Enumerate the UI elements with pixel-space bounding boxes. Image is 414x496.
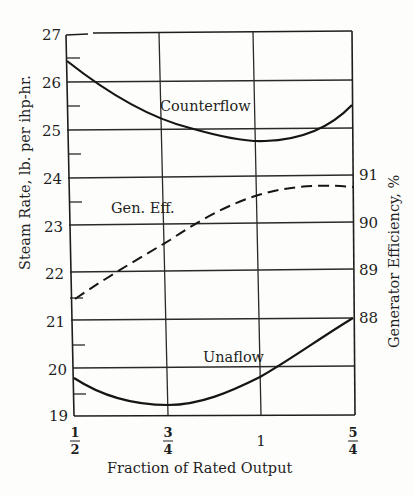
svg-text:4: 4 bbox=[163, 442, 172, 457]
x-tick-labels: 1 2 3 4 1 5 4 bbox=[70, 425, 358, 457]
svg-text:90: 90 bbox=[359, 214, 378, 232]
svg-text:2: 2 bbox=[70, 442, 79, 457]
right-y-tick-labels: 91 90 89 88 bbox=[359, 166, 378, 327]
svg-text:91: 91 bbox=[359, 166, 378, 184]
horizontal-gridlines bbox=[67, 80, 354, 368]
svg-text:19: 19 bbox=[49, 407, 68, 425]
chart: Counterflow Gen. Eff. Unaflow 27 26 25 2… bbox=[0, 0, 414, 496]
gen-eff-label: Gen. Eff. bbox=[111, 200, 175, 216]
counterflow-label: Counterflow bbox=[160, 98, 251, 114]
svg-text:23: 23 bbox=[44, 218, 63, 236]
svg-text:1: 1 bbox=[70, 425, 79, 440]
svg-text:22: 22 bbox=[45, 265, 64, 283]
svg-text:4: 4 bbox=[348, 442, 357, 457]
svg-text:25: 25 bbox=[42, 122, 61, 140]
svg-text:24: 24 bbox=[43, 170, 62, 188]
left-y-tick-labels: 27 26 25 24 23 22 21 20 19 bbox=[42, 26, 68, 425]
x-axis-title: Fraction of Rated Output bbox=[107, 460, 292, 476]
svg-text:27: 27 bbox=[42, 26, 61, 44]
svg-text:5: 5 bbox=[348, 425, 357, 440]
unaflow-label: Unaflow bbox=[203, 349, 265, 365]
y-axis-title: Steam Rate, lb. per ihp-hr. bbox=[17, 75, 33, 270]
svg-text:88: 88 bbox=[359, 309, 378, 327]
svg-text:20: 20 bbox=[48, 361, 67, 379]
svg-text:89: 89 bbox=[359, 261, 378, 279]
svg-text:3: 3 bbox=[163, 425, 172, 440]
svg-text:21: 21 bbox=[46, 313, 65, 331]
svg-text:26: 26 bbox=[42, 74, 61, 92]
svg-text:1: 1 bbox=[256, 432, 266, 450]
y2-axis-title: Generator Efficiency, % bbox=[386, 175, 402, 348]
